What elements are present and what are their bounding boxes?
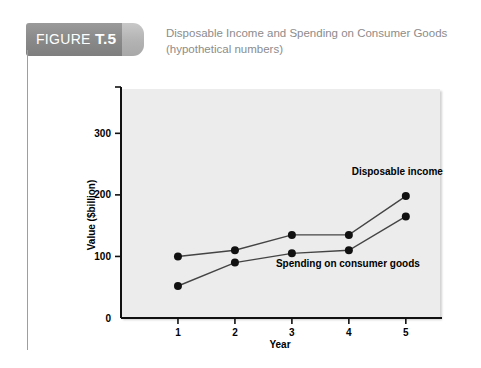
series-data-point xyxy=(345,231,353,239)
x-axis: 12345 xyxy=(121,318,442,338)
series-data-point xyxy=(288,249,296,257)
chart-figure: 0100200300 12345 Disposable incomeSpendi… xyxy=(0,0,481,368)
series-data-point xyxy=(402,192,410,200)
y-tick: 100 xyxy=(94,251,121,262)
y-tick-label: 300 xyxy=(94,128,111,139)
series-data-point xyxy=(174,282,182,290)
x-tick: 4 xyxy=(346,318,352,338)
x-tick-label: 2 xyxy=(232,327,238,338)
x-tick-label: 3 xyxy=(289,327,295,338)
x-tick: 2 xyxy=(232,318,238,338)
series-line xyxy=(178,196,406,256)
x-tick: 3 xyxy=(289,318,295,338)
x-tick-label: 5 xyxy=(403,327,409,338)
y-axis: 0100200300 xyxy=(94,87,121,324)
series-data-point xyxy=(231,259,239,267)
x-axis-title: Year xyxy=(269,339,290,350)
x-tick: 1 xyxy=(175,318,181,338)
series-label: Spending on consumer goods xyxy=(276,258,420,269)
y-tick-label: 0 xyxy=(105,313,111,324)
chart-series-2: Spending on consumer goods xyxy=(174,212,420,290)
chart-svg: 0100200300 12345 Disposable incomeSpendi… xyxy=(0,0,481,368)
x-tick: 5 xyxy=(403,318,409,338)
y-tick: 0 xyxy=(105,313,111,324)
x-tick-label: 4 xyxy=(346,327,352,338)
series-label: Disposable income xyxy=(352,166,444,177)
chart-series-group: Disposable incomeSpending on consumer go… xyxy=(174,166,443,290)
series-data-point xyxy=(288,231,296,239)
y-tick: 200 xyxy=(94,189,121,200)
x-tick-label: 1 xyxy=(175,327,181,338)
y-tick: 300 xyxy=(94,128,121,139)
y-axis-title: Value ($billion) xyxy=(86,180,97,251)
chart-series-1: Disposable income xyxy=(174,166,443,260)
series-data-point xyxy=(402,212,410,220)
y-tick-label: 100 xyxy=(94,251,111,262)
series-data-point xyxy=(231,246,239,254)
series-data-point xyxy=(345,246,353,254)
series-data-point xyxy=(174,252,182,260)
